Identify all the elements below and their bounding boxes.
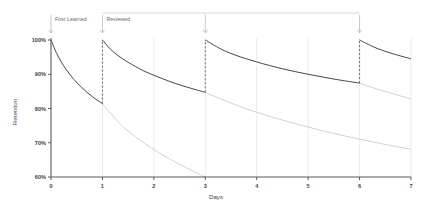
- y-tick-label-60%: 60%: [35, 174, 46, 180]
- x-tick-label-0: 0: [49, 183, 52, 189]
- chart-canvas: First LearnedReviewed 60%70%80%90%100%01…: [0, 0, 428, 210]
- review-dashed-lines-group: [102, 40, 359, 104]
- x-axis-title: Days: [209, 193, 223, 200]
- gridlines-group: [102, 38, 411, 177]
- x-tick-label-1: 1: [101, 183, 104, 189]
- x-tick-label-5: 5: [307, 183, 310, 189]
- curve-forgetting-without-review-3: [360, 83, 411, 99]
- annotation-label-reviewed: Reviewed: [106, 16, 130, 22]
- axes-group: [51, 38, 411, 177]
- x-tick-label-7: 7: [409, 183, 412, 189]
- review-arrows-group: [49, 15, 362, 33]
- y-tick-label-100%: 100%: [32, 37, 46, 43]
- forgetting-curve-chart: First LearnedReviewed 60%70%80%90%100%01…: [0, 0, 428, 210]
- x-tick-label-2: 2: [152, 183, 155, 189]
- curve-retention-with-review-1: [51, 40, 102, 104]
- x-tick-label-4: 4: [255, 183, 259, 189]
- curve-retention-with-review-4: [360, 40, 411, 59]
- curve-retention-with-review-3: [205, 40, 359, 83]
- y-tick-label-90%: 90%: [35, 71, 46, 77]
- y-axis-title: Retention: [11, 98, 18, 125]
- x-tick-label-6: 6: [358, 183, 361, 189]
- y-tick-label-80%: 80%: [35, 106, 46, 112]
- annotation-labels-group: First LearnedReviewed: [55, 16, 130, 22]
- axis-ticks-group: 60%70%80%90%100%01234567: [32, 37, 413, 189]
- y-tick-label-70%: 70%: [35, 140, 46, 146]
- retention-curves-group: [51, 40, 411, 104]
- x-tick-label-3: 3: [204, 183, 207, 189]
- annotation-label-first-learned: First Learned: [55, 16, 87, 22]
